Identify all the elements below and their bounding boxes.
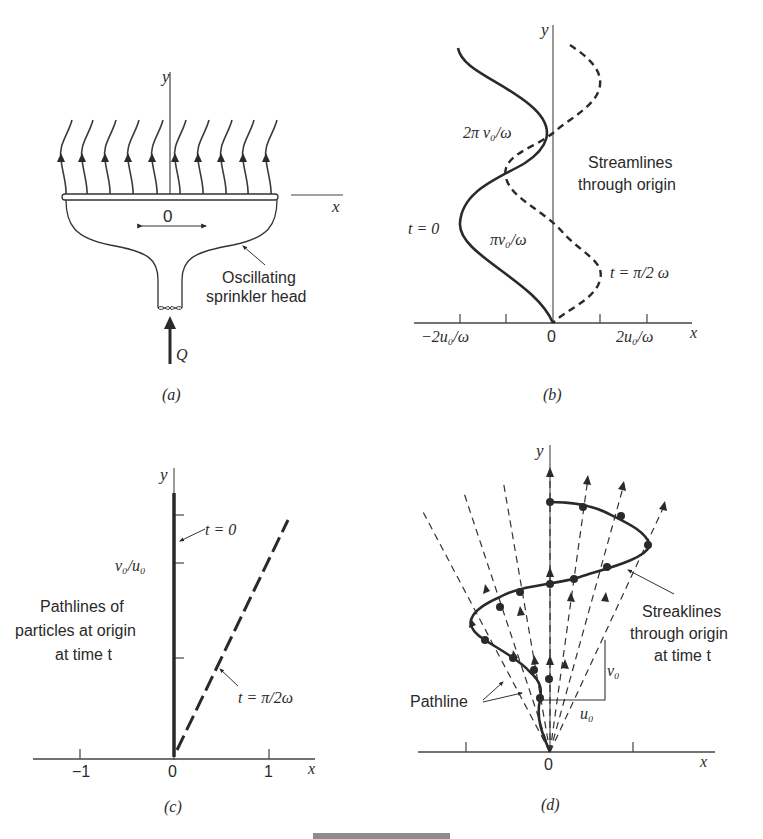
y-axis-label: y (158, 465, 168, 484)
streakline-annotation-arrow (628, 570, 674, 594)
label-pi-v0-w: πv₀/ω (490, 231, 526, 248)
caption-a: (a) (162, 386, 181, 404)
label-t0-arrow (180, 529, 205, 541)
streamline-arrowheads (57, 153, 270, 162)
annotation-line2: sprinkler head (206, 288, 307, 305)
annotation-line3: at time t (55, 646, 112, 663)
label-2pi-v0-w: 2π v₀/ω (463, 124, 511, 141)
annotation-line1: Streaklines (642, 603, 721, 620)
label-u0: u₀ (580, 705, 594, 722)
label-t-pi-2w: t = π/2 ω (610, 264, 669, 281)
panel-d: y x 0 (410, 441, 728, 814)
panel-b: y x −2u₀/ω 0 2u₀/ω 2π v₀/ω πv₀/ω t = 0 t… (408, 20, 697, 404)
flow-label: Q (176, 346, 188, 363)
annotation-line1: Oscillating (222, 269, 296, 286)
streamline-t0 (458, 48, 553, 323)
panel-c: y x −1 0 1 v₀/u₀ t = 0 t = π/2ω Pathline… (15, 465, 315, 816)
caption-d: (d) (541, 796, 560, 814)
annotation-line1: Streamlines (588, 154, 672, 171)
flow-arrow-head (164, 316, 176, 329)
origin-label: 0 (544, 756, 553, 773)
pathline-t-pi-2w (177, 520, 288, 750)
pathline-label: Pathline (410, 693, 468, 710)
pipe-break (158, 307, 182, 310)
label-t0: t = 0 (205, 521, 236, 538)
streakline-points (481, 498, 652, 702)
x-axis-label: x (307, 760, 315, 777)
annotation-line1: Pathlines of (40, 598, 124, 615)
label-t-pi-2w: t = π/2ω (238, 689, 293, 706)
tick-1-label: 1 (264, 763, 273, 780)
annotation-line2: through origin (578, 176, 676, 193)
caption-c: (c) (164, 798, 182, 816)
figure-canvas: y x (0, 0, 763, 839)
x-axis-label: x (689, 324, 697, 341)
panel-a: y x (57, 67, 343, 404)
tick-neg1-label: −1 (72, 763, 90, 780)
x-axis-label: x (331, 197, 340, 216)
annotation-line2: through origin (630, 625, 728, 642)
annotation-line3: at time t (654, 647, 711, 664)
tick-0-label: 0 (168, 763, 177, 780)
annotation-line2: particles at origin (15, 622, 136, 639)
tick-origin-label: 0 (547, 328, 556, 345)
tick-right-label: 2u₀/ω (616, 328, 653, 345)
origin-label: 0 (163, 207, 172, 226)
sprinkler-bar (62, 194, 278, 200)
x-axis-label: x (699, 753, 707, 770)
caption-b: (b) (543, 386, 562, 404)
bottom-bar (313, 833, 450, 839)
tick-left-label: −2u₀/ω (421, 328, 469, 345)
label-t0: t = 0 (408, 220, 439, 237)
y-axis-label: y (160, 67, 170, 86)
label-t-pi-arrow (220, 669, 238, 686)
annotation-arrow (243, 246, 265, 265)
pathline-arrow-1 (483, 682, 503, 700)
y-axis-label: y (534, 441, 544, 460)
y-axis-label: y (539, 20, 549, 39)
ytick-v0-u0-label: v₀/u₀ (115, 557, 146, 574)
label-v0: v₀ (607, 662, 620, 679)
